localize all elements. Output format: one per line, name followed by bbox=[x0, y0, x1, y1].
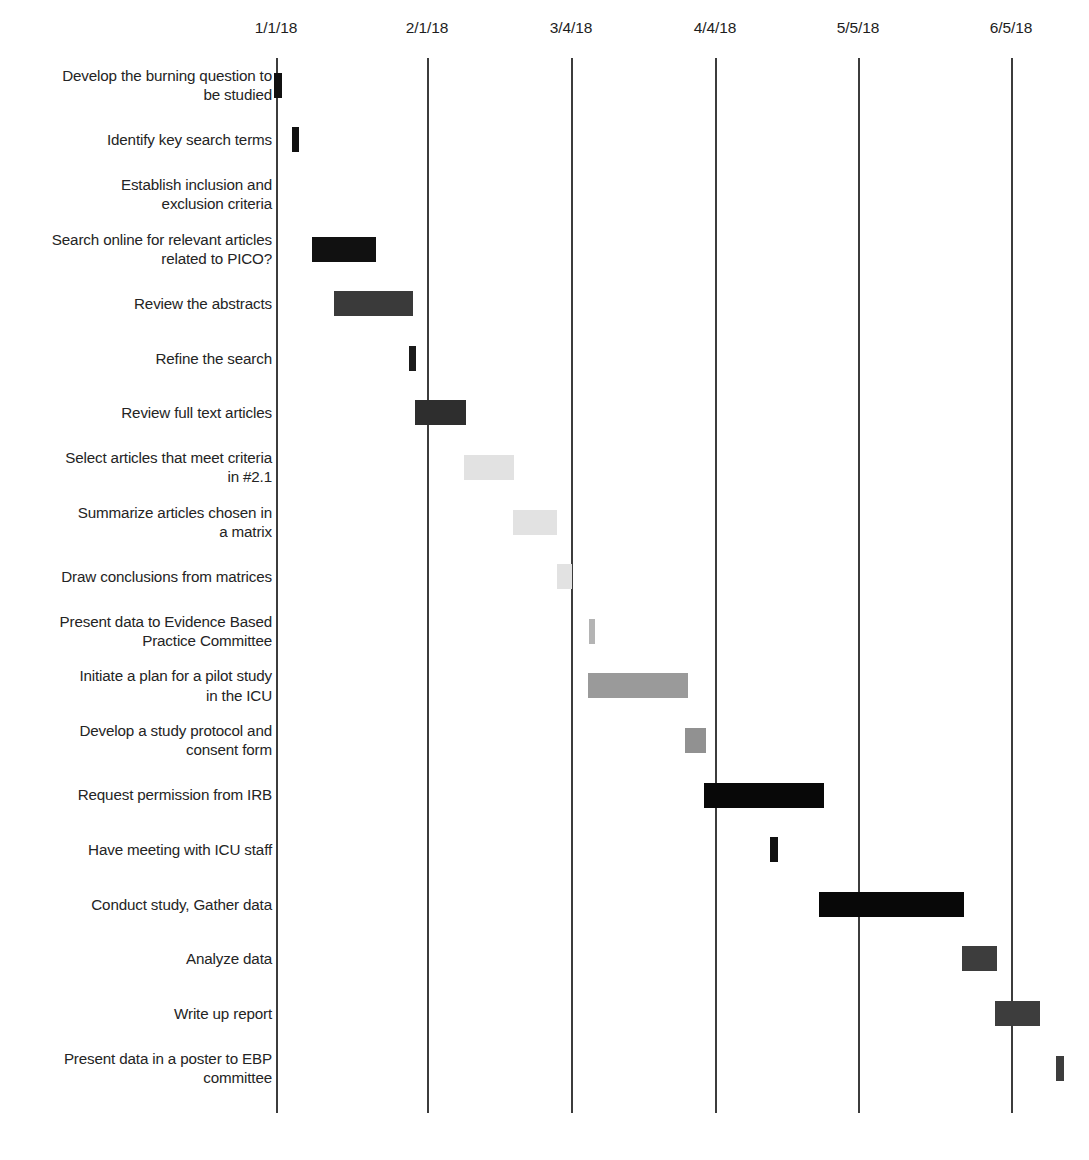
task-label-line: Develop the burning question to bbox=[62, 66, 272, 85]
gantt-bar[interactable] bbox=[962, 946, 997, 971]
gantt-bar[interactable] bbox=[704, 783, 824, 808]
task-label-line: Select articles that meet criteria bbox=[65, 448, 272, 467]
gantt-bar[interactable] bbox=[513, 510, 557, 535]
gantt-bar[interactable] bbox=[312, 237, 376, 262]
task-label: Establish inclusion andexclusion criteri… bbox=[12, 167, 272, 222]
task-row[interactable]: Select articles that meet criteriain #2.… bbox=[0, 440, 1089, 495]
task-label-line: Practice Committee bbox=[60, 631, 273, 650]
task-label-line: Present data to Evidence Based bbox=[60, 612, 273, 631]
task-label-line: Develop a study protocol and bbox=[79, 721, 272, 740]
task-label: Develop a study protocol andconsent form bbox=[12, 713, 272, 768]
task-label: Review full text articles bbox=[12, 386, 272, 441]
task-label: Have meeting with ICU staff bbox=[12, 822, 272, 877]
axis-tick-label: 3/4/18 bbox=[550, 19, 593, 37]
task-row[interactable]: Search online for relevant articlesrelat… bbox=[0, 222, 1089, 277]
task-label: Present data to Evidence BasedPractice C… bbox=[12, 604, 272, 659]
axis-tick-label: 2/1/18 bbox=[406, 19, 449, 37]
task-label: Present data in a poster to EBPcommittee bbox=[12, 1041, 272, 1096]
task-row[interactable]: Initiate a plan for a pilot studyin the … bbox=[0, 659, 1089, 714]
gantt-bar[interactable] bbox=[274, 73, 282, 98]
task-label: Draw conclusions from matrices bbox=[12, 549, 272, 604]
task-label: Write up report bbox=[12, 986, 272, 1041]
task-label-line: Analyze data bbox=[186, 949, 272, 968]
task-label-line: consent form bbox=[79, 740, 272, 759]
task-row[interactable]: Write up report bbox=[0, 986, 1089, 1041]
task-label-line: exclusion criteria bbox=[121, 194, 272, 213]
task-label-line: Search online for relevant articles bbox=[52, 230, 272, 249]
task-label-line: Review the abstracts bbox=[134, 294, 272, 313]
task-label-line: Request permission from IRB bbox=[78, 785, 272, 804]
gantt-bar[interactable] bbox=[292, 127, 299, 152]
task-label-line: be studied bbox=[62, 85, 272, 104]
gantt-bar[interactable] bbox=[685, 728, 706, 753]
task-label-line: Establish inclusion and bbox=[121, 175, 272, 194]
task-label-line: Write up report bbox=[174, 1004, 272, 1023]
task-row[interactable]: Identify key search terms bbox=[0, 113, 1089, 168]
task-label-line: a matrix bbox=[78, 522, 272, 541]
task-label: Conduct study, Gather data bbox=[12, 877, 272, 932]
task-row[interactable]: Draw conclusions from matrices bbox=[0, 549, 1089, 604]
task-label-line: related to PICO? bbox=[52, 249, 272, 268]
axis-tick-label: 5/5/18 bbox=[837, 19, 880, 37]
gantt-bar[interactable] bbox=[589, 619, 595, 644]
task-label-line: in #2.1 bbox=[65, 467, 272, 486]
gantt-bar[interactable] bbox=[1056, 1056, 1064, 1081]
task-row[interactable]: Present data in a poster to EBPcommittee bbox=[0, 1041, 1089, 1096]
task-label-line: Draw conclusions from matrices bbox=[61, 567, 272, 586]
task-label: Search online for relevant articlesrelat… bbox=[12, 222, 272, 277]
task-label-line: Initiate a plan for a pilot study bbox=[79, 666, 272, 685]
task-label-line: Refine the search bbox=[156, 349, 273, 368]
task-row[interactable]: Present data to Evidence BasedPractice C… bbox=[0, 604, 1089, 659]
axis-tick-label: 4/4/18 bbox=[694, 19, 737, 37]
gantt-bar[interactable] bbox=[409, 346, 416, 371]
axis-tick-label: 6/5/18 bbox=[990, 19, 1033, 37]
task-label: Develop the burning question tobe studie… bbox=[12, 58, 272, 113]
gantt-bar[interactable] bbox=[819, 892, 964, 917]
task-row[interactable]: Develop a study protocol andconsent form bbox=[0, 713, 1089, 768]
gantt-bar[interactable] bbox=[557, 564, 572, 589]
task-row[interactable]: Summarize articles chosen ina matrix bbox=[0, 495, 1089, 550]
task-label-line: Identify key search terms bbox=[107, 130, 272, 149]
task-row[interactable]: Refine the search bbox=[0, 331, 1089, 386]
task-row[interactable]: Establish inclusion andexclusion criteri… bbox=[0, 167, 1089, 222]
task-row-group: Develop the burning question tobe studie… bbox=[0, 58, 1089, 1113]
task-label: Initiate a plan for a pilot studyin the … bbox=[12, 659, 272, 714]
task-label: Identify key search terms bbox=[12, 113, 272, 168]
gantt-bar[interactable] bbox=[995, 1001, 1040, 1026]
task-label-line: Summarize articles chosen in bbox=[78, 503, 272, 522]
task-label: Select articles that meet criteriain #2.… bbox=[12, 440, 272, 495]
gantt-bar[interactable] bbox=[464, 455, 514, 480]
task-row[interactable]: Analyze data bbox=[0, 932, 1089, 987]
gantt-bar[interactable] bbox=[770, 837, 778, 862]
date-axis: 1/1/182/1/183/4/184/4/185/5/186/5/18 bbox=[0, 0, 1089, 58]
task-label-line: Review full text articles bbox=[121, 403, 272, 422]
task-row[interactable]: Review full text articles bbox=[0, 386, 1089, 441]
task-row[interactable]: Conduct study, Gather data bbox=[0, 877, 1089, 932]
task-label: Analyze data bbox=[12, 932, 272, 987]
task-label-line: in the ICU bbox=[79, 686, 272, 705]
task-label: Request permission from IRB bbox=[12, 768, 272, 823]
task-row[interactable]: Review the abstracts bbox=[0, 276, 1089, 331]
task-label: Review the abstracts bbox=[12, 276, 272, 331]
task-row[interactable]: Request permission from IRB bbox=[0, 768, 1089, 823]
task-label: Refine the search bbox=[12, 331, 272, 386]
task-label-line: Conduct study, Gather data bbox=[91, 895, 272, 914]
task-row[interactable]: Have meeting with ICU staff bbox=[0, 822, 1089, 877]
gantt-bar[interactable] bbox=[334, 291, 413, 316]
task-row[interactable]: Develop the burning question tobe studie… bbox=[0, 58, 1089, 113]
task-label-line: committee bbox=[64, 1068, 272, 1087]
gantt-bar[interactable] bbox=[588, 673, 688, 698]
task-label-line: Have meeting with ICU staff bbox=[88, 840, 272, 859]
gantt-chart: 1/1/182/1/183/4/184/4/185/5/186/5/18 Dev… bbox=[0, 0, 1089, 1160]
task-label-line: Present data in a poster to EBP bbox=[64, 1049, 272, 1068]
gantt-bar[interactable] bbox=[415, 400, 466, 425]
axis-tick-label: 1/1/18 bbox=[255, 19, 298, 37]
task-label: Summarize articles chosen ina matrix bbox=[12, 495, 272, 550]
